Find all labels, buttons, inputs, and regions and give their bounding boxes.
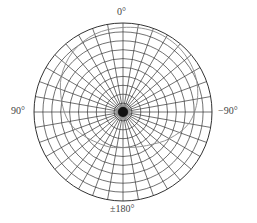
angle-label-minus-90: −90°: [218, 105, 238, 116]
angle-label-0: 0°: [117, 6, 126, 17]
angle-label-90: 90°: [11, 105, 25, 116]
angle-label-180: ±180°: [110, 203, 135, 214]
center-hub: [118, 107, 128, 117]
